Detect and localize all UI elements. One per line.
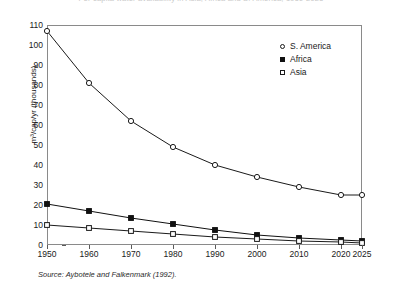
x-tick-mark — [362, 245, 363, 249]
y-tick-label: 20 — [19, 201, 43, 210]
chart-legend: S. America Africa Asia — [277, 40, 373, 79]
x-tick-mark — [299, 245, 300, 249]
y-tick-label: 90 — [19, 61, 43, 70]
legend-item-africa: Africa — [277, 53, 373, 65]
y-tick-label: 70 — [19, 101, 43, 110]
y-tick-label: 110 — [19, 21, 43, 30]
legend-item-s-america: S. America — [277, 40, 373, 52]
x-tick-mark — [131, 245, 132, 249]
x-tick-label: 2025 — [342, 249, 382, 259]
x-tick-mark — [257, 245, 258, 249]
open-circle-icon — [277, 44, 288, 49]
source-note: Source: Aybotele and Falkenmark (1992). — [38, 270, 176, 279]
x-tick-label: 1980 — [153, 249, 193, 259]
x-tick-mark — [341, 245, 342, 249]
y-tick-label: 60 — [19, 121, 43, 130]
x-tick-mark — [215, 245, 216, 249]
legend-label-s-america: S. America — [288, 42, 331, 51]
open-square-icon — [277, 70, 288, 75]
y-tick-label: 10 — [19, 221, 43, 230]
x-tick-label: 2010 — [279, 249, 319, 259]
filled-square-icon — [277, 57, 288, 62]
x-tick-label: 2000 — [237, 249, 277, 259]
chart-figure: Per capita water availability in Asia, A… — [0, 0, 402, 290]
legend-item-asia: Asia — [277, 66, 373, 78]
y-tick-mark — [62, 245, 66, 246]
x-axis-tick-labels: 195019601970198019902000201020202025 — [0, 247, 402, 261]
x-tick-mark — [89, 245, 90, 249]
y-tick-label: 30 — [19, 181, 43, 190]
chart-title: Per capita water availability in Asia, A… — [0, 0, 402, 3]
y-tick-label: 100 — [19, 41, 43, 50]
y-tick-label: 80 — [19, 81, 43, 90]
x-tick-label: 1970 — [111, 249, 151, 259]
legend-label-asia: Asia — [288, 68, 307, 77]
y-axis-tick-labels: 0102030405060708090100110 — [15, 25, 43, 245]
legend-label-africa: Africa — [288, 55, 312, 64]
x-tick-mark — [173, 245, 174, 249]
y-tick-label: 50 — [19, 141, 43, 150]
x-tick-label: 1950 — [27, 249, 67, 259]
y-tick-label: 40 — [19, 161, 43, 170]
x-tick-label: 1960 — [69, 249, 109, 259]
x-tick-label: 1990 — [195, 249, 235, 259]
x-tick-mark — [47, 245, 48, 249]
